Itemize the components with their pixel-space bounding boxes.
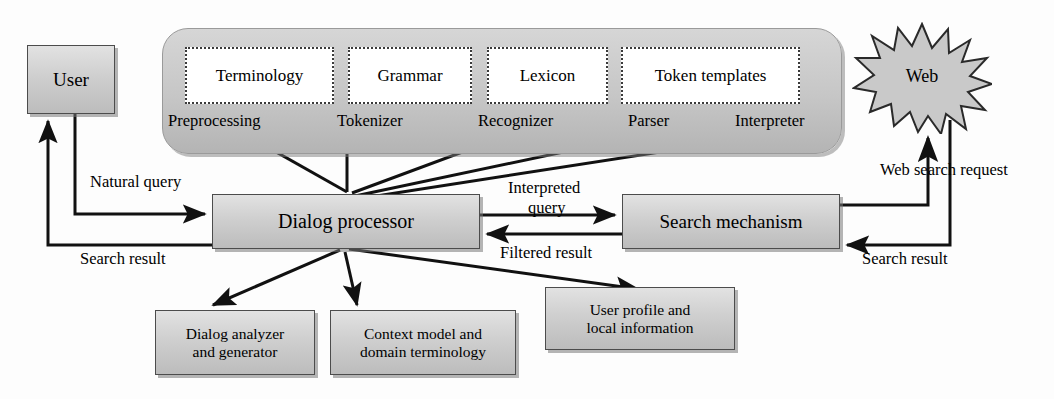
node-context-model: Context model anddomain terminology [330, 310, 516, 375]
edge-search-result-right [847, 120, 950, 245]
diagram-canvas: Terminology Grammar Lexicon Token templa… [0, 0, 1054, 399]
flow-label-filtered-result: Filtered result [500, 243, 592, 263]
node-label: Search mechanism [660, 211, 803, 232]
node-label: User profile andlocal information [586, 301, 693, 336]
stage-label-parser: Parser [628, 111, 669, 131]
stage-label-preprocessing: Preprocessing [168, 111, 261, 131]
node-user: User [27, 45, 115, 114]
resource-label: Token templates [655, 66, 767, 85]
flow-label-interpreted: Interpreted [508, 178, 580, 198]
stage-label-interpreter: Interpreter [735, 111, 805, 131]
edge-to-user-profile [349, 249, 638, 289]
flow-label-search-result-right: Search result [862, 249, 948, 269]
resource-label: Terminology [216, 66, 304, 85]
edge-to-context-model [345, 252, 357, 305]
node-label: Web [852, 66, 992, 87]
resource-label: Lexicon [520, 66, 576, 85]
resource-label: Grammar [377, 66, 442, 85]
resource-box-token-templates: Token templates [621, 47, 800, 104]
node-label: User [53, 69, 89, 90]
stage-label-recognizer: Recognizer [478, 111, 553, 131]
stage-label-tokenizer: Tokenizer [337, 111, 403, 131]
edge-to-dialog-analyzer [213, 250, 340, 305]
node-search-mechanism: Search mechanism [622, 194, 840, 249]
node-dialog-analyzer: Dialog analyzerand generator [155, 310, 315, 375]
node-label: Context model anddomain terminology [360, 325, 486, 360]
flow-label-search-result-left: Search result [80, 249, 166, 269]
node-web: Web [852, 22, 992, 134]
flow-label-natural-query: Natural query [90, 172, 181, 192]
flow-label-web-search-request: Web search request [880, 160, 1008, 180]
node-user-profile: User profile andlocal information [545, 287, 735, 350]
resource-box-lexicon: Lexicon [487, 47, 608, 104]
flow-label-query: query [528, 198, 566, 218]
resource-box-terminology: Terminology [185, 47, 334, 104]
node-label: Dialog analyzerand generator [186, 325, 285, 360]
node-dialog-processor: Dialog processor [212, 194, 480, 249]
resource-box-grammar: Grammar [348, 47, 472, 104]
node-label: Dialog processor [278, 210, 414, 232]
